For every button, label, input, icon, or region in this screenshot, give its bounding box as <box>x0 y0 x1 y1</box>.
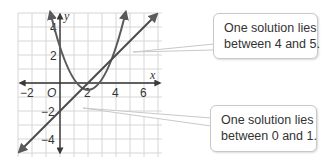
x-tick-label: 2 <box>84 86 91 100</box>
y-tick-label: 2 <box>50 49 57 63</box>
callout-solution-0-1: One solution lies between 0 and 1. <box>210 105 317 152</box>
origin-label: O <box>47 86 56 100</box>
callout-pointer-1 <box>133 44 214 52</box>
x-tick-label: −2 <box>20 86 34 100</box>
callout-text-line: One solution lies <box>221 112 308 128</box>
x-axis-label: x <box>149 68 156 82</box>
callout-text-line: between 0 and 1. <box>221 128 308 144</box>
x-tick-label: 4 <box>112 86 119 100</box>
x-tick-label: 6 <box>140 86 147 100</box>
callout-text-line: One solution lies <box>224 20 309 36</box>
grid <box>18 13 162 157</box>
callout-text-line: between 4 and 5. <box>224 36 309 52</box>
callout-solution-4-5: One solution lies between 4 and 5. <box>213 13 318 59</box>
y-axis-label: y <box>63 9 70 23</box>
y-tick-label: −4 <box>41 133 55 147</box>
